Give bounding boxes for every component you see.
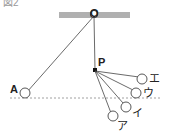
label-position-u: ウ bbox=[143, 87, 154, 99]
bob-i-position bbox=[121, 102, 131, 112]
label-p: P bbox=[98, 56, 105, 68]
label-position-a: ア bbox=[117, 120, 128, 132]
bob-a bbox=[20, 88, 30, 98]
pendulum-diagram: O P A ア イ ウ エ bbox=[0, 0, 169, 138]
label-o: O bbox=[90, 7, 99, 19]
bob-u-position bbox=[131, 88, 141, 98]
bob-e-position bbox=[137, 74, 147, 84]
string-to-a bbox=[27, 16, 94, 92]
label-position-i: イ bbox=[132, 107, 143, 119]
label-a: A bbox=[10, 83, 18, 95]
string-to-p bbox=[94, 16, 95, 70]
string-to-a-position bbox=[95, 71, 111, 113]
label-position-e: エ bbox=[149, 72, 160, 84]
